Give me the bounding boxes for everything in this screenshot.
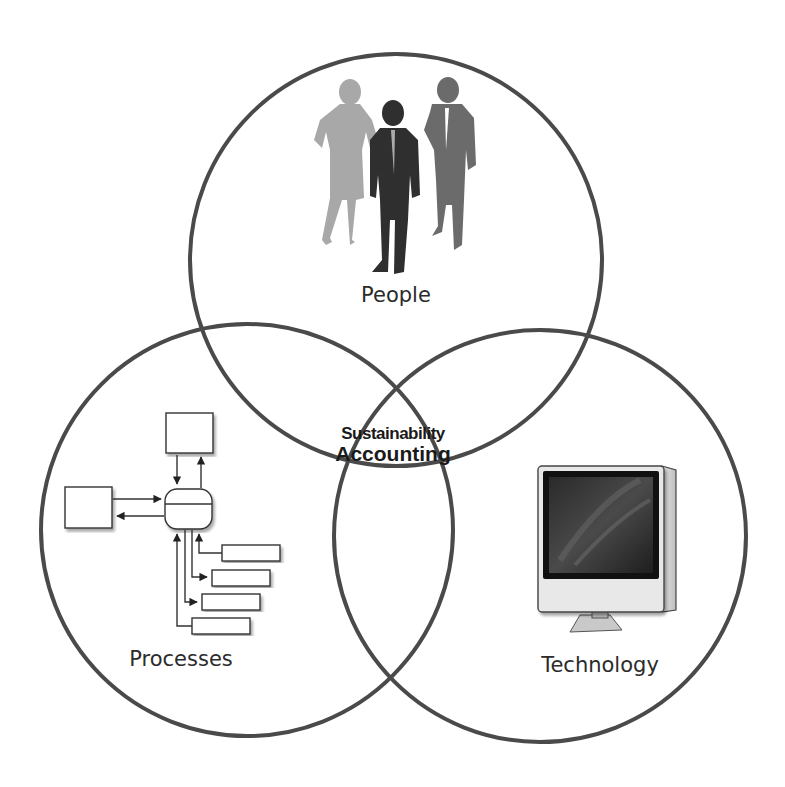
desktop-computer-icon	[538, 466, 676, 632]
process-flow-diagram-icon	[65, 413, 280, 634]
technology-label: Technology	[541, 653, 659, 677]
people-silhouettes-icon	[314, 77, 476, 274]
processes-label: Processes	[129, 647, 233, 671]
center-label-line1: Sustainability	[335, 425, 451, 443]
people-label: People	[361, 283, 431, 307]
center-label-line2: Accounting	[335, 443, 451, 465]
venn-diagram: People Processes Technology Sustainabili…	[0, 0, 785, 787]
circle-processes	[41, 324, 453, 736]
center-label: Sustainability Accounting	[335, 425, 451, 465]
